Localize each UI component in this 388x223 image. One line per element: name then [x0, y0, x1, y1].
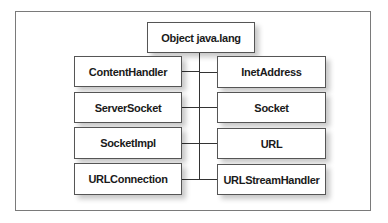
connector-left-3: [181, 143, 200, 144]
connector-left-2: [181, 107, 200, 108]
node-urlstreamhandler: URLStreamHandler: [217, 164, 326, 195]
node-urlconnection: URLConnection: [74, 163, 182, 195]
connector-right-1: [199, 72, 218, 73]
node-socket: Socket: [217, 92, 326, 123]
node-object-java-lang: Object java.lang: [147, 22, 255, 53]
node-url: URL: [217, 128, 326, 159]
connector-right-3: [199, 143, 218, 144]
node-serversocket: ServerSocket: [74, 92, 182, 123]
node-inetaddress: InetAddress: [217, 56, 326, 88]
connector-left-4: [181, 179, 200, 180]
connector-left-1: [181, 71, 200, 72]
node-socketimpl: SocketImpl: [74, 127, 182, 159]
connector-right-4: [199, 179, 218, 180]
node-contenthandler: ContentHandler: [74, 56, 182, 87]
connector-right-2: [199, 107, 218, 108]
